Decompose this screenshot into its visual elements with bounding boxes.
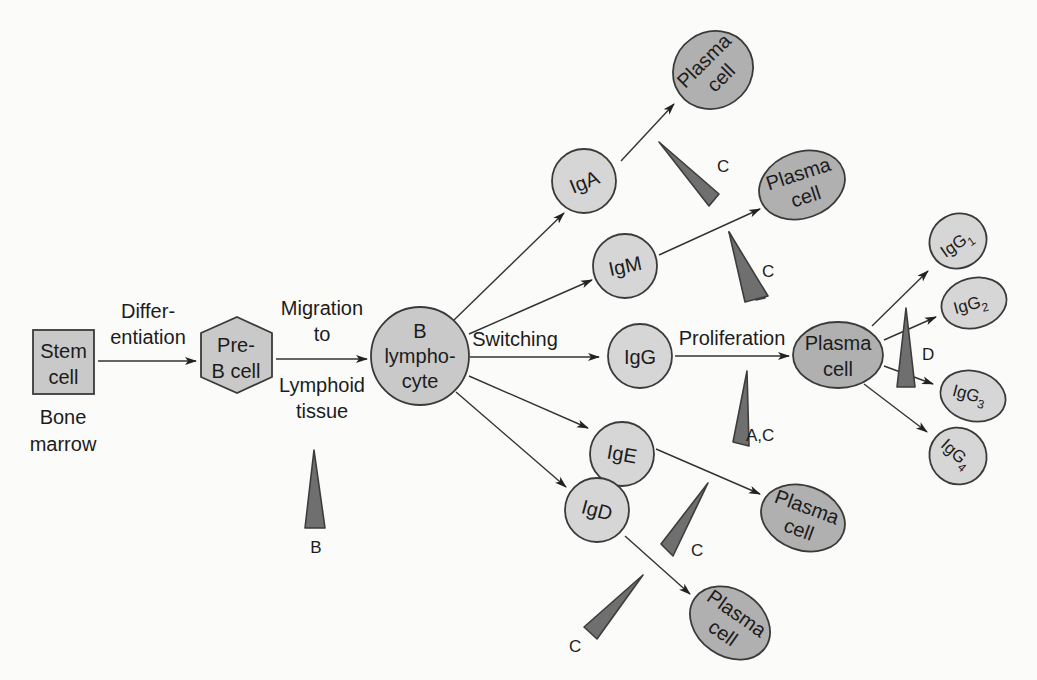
- migration-label-3: Lymphoid: [279, 374, 365, 396]
- plasma-label-1: Plasma: [805, 332, 873, 354]
- migration-label-4: tissue: [296, 400, 348, 422]
- defect-label-b: B: [310, 538, 321, 557]
- defect-wedge-d: [897, 308, 915, 387]
- igg4-node: IgG4: [918, 416, 998, 496]
- arrow-iga-to-plasma: [621, 104, 674, 161]
- migration-label-1: Migration: [281, 297, 363, 319]
- differentiation-label-1: Differ-: [121, 300, 175, 322]
- arrow-to-ige: [469, 376, 588, 428]
- plasma-cell-iga: Plasma cell: [658, 15, 769, 124]
- plasma-cell-igg: Plasma cell: [793, 322, 883, 388]
- pre-b-cell-label-2: B cell: [212, 360, 261, 382]
- arrow-to-igd: [456, 392, 566, 487]
- stem-cell-node: Stem cell: [33, 330, 94, 394]
- plasma-cell-ige: Plasma cell: [752, 473, 855, 563]
- bone-marrow-label-2: marrow: [30, 433, 97, 455]
- migration-label-2: to: [314, 323, 331, 345]
- differentiation-label-2: entiation: [110, 326, 186, 348]
- plasma-cell-igd: Plasma cell: [676, 571, 784, 674]
- iga-node: IgA: [552, 149, 616, 213]
- b-lymphocyte-label-1: B: [413, 320, 426, 342]
- arrow-ige-to-plasma: [656, 449, 760, 494]
- defect-label-c-igd: C: [569, 637, 581, 656]
- arrow-igm-to-plasma: [659, 209, 760, 255]
- b-lymphocyte-node: B lympho- cyte: [371, 307, 469, 405]
- plasma-cell-igm: Plasma cell: [749, 139, 854, 231]
- switching-label: Switching: [472, 328, 558, 350]
- stem-cell-label-1: Stem: [40, 340, 87, 362]
- b-cell-diagram: Stem cell Bone marrow Differ- entiation …: [0, 0, 1037, 680]
- igm-node: IgM: [593, 234, 657, 298]
- defect-label-c-iga: C: [717, 157, 729, 176]
- defect-label-ac-igg: A,C: [746, 426, 774, 445]
- igg-label: IgG: [624, 346, 656, 368]
- arrow-to-igg1: [872, 271, 928, 326]
- plasma-label-2: cell: [823, 358, 853, 380]
- igg1-node: IgG1: [919, 203, 996, 279]
- igg3-node: IgG3: [935, 363, 1012, 428]
- proliferation-label: Proliferation: [679, 327, 786, 349]
- b-lymphocyte-label-3: cyte: [402, 370, 439, 392]
- defect-label-c-ige: C: [691, 541, 703, 560]
- stem-cell-label-2: cell: [48, 366, 78, 388]
- b-lymphocyte-label-2: lympho-: [384, 345, 455, 367]
- ige-node: IgE: [590, 422, 654, 486]
- igg2-node: IgG2: [936, 270, 1013, 335]
- pre-b-cell-node: Pre- B cell: [201, 317, 272, 393]
- defect-label-c-igm: C: [762, 262, 774, 281]
- defect-wedge-b: [305, 450, 325, 528]
- igd-node: IgD: [565, 478, 629, 542]
- defect-label-d: D: [922, 345, 934, 364]
- arrow-to-igg4: [864, 384, 927, 432]
- igg-node: IgG: [608, 324, 672, 388]
- defect-wedge-c-igd: [584, 575, 643, 639]
- pre-b-cell-label-1: Pre-: [217, 334, 255, 356]
- arrow-to-iga: [454, 213, 564, 320]
- defect-wedge-c-iga: [659, 142, 719, 206]
- bone-marrow-label-1: Bone: [40, 406, 87, 428]
